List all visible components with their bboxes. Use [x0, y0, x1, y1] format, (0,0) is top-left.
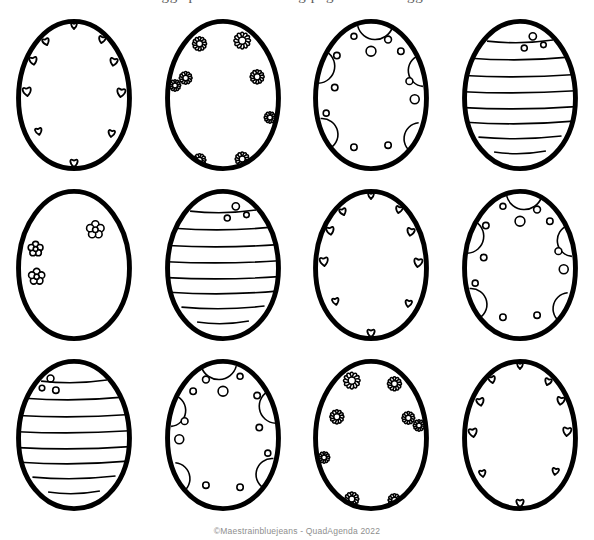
egg-7[interactable] — [297, 180, 446, 350]
page-title: Easter eggs printable coloring page with… — [109, 0, 485, 3]
egg-9[interactable] — [0, 350, 149, 520]
egg-10[interactable] — [149, 350, 298, 520]
egg-2[interactable] — [149, 10, 298, 180]
egg-outline-1 — [10, 15, 138, 175]
egg-outline-11 — [307, 355, 435, 515]
egg-outline-5 — [10, 185, 138, 345]
egg-4[interactable] — [446, 10, 594, 180]
egg-3[interactable] — [297, 10, 446, 180]
egg-outline-6 — [159, 185, 287, 345]
egg-outline-9 — [10, 355, 138, 515]
egg-outline-8 — [456, 185, 584, 345]
egg-1[interactable] — [0, 10, 149, 180]
copyright-text: ©Maestrainbluejeans - QuadAgenda 2022 — [214, 526, 380, 536]
egg-outline-12 — [456, 355, 584, 515]
egg-11[interactable] — [297, 350, 446, 520]
footer: ©Maestrainbluejeans - QuadAgenda 2022 — [0, 520, 594, 538]
egg-outline-10 — [159, 355, 287, 515]
egg-6[interactable] — [149, 180, 298, 350]
egg-outline-7 — [307, 185, 435, 345]
egg-outline-3 — [307, 15, 435, 175]
egg-grid — [0, 10, 594, 522]
coloring-page: Easter eggs printable coloring page with… — [0, 0, 594, 540]
egg-outline-2 — [159, 15, 287, 175]
egg-8[interactable] — [446, 180, 594, 350]
egg-12[interactable] — [446, 350, 594, 520]
egg-5[interactable] — [0, 180, 149, 350]
egg-outline-4 — [456, 15, 584, 175]
page-title-bar: Easter eggs printable coloring page with… — [0, 0, 594, 6]
